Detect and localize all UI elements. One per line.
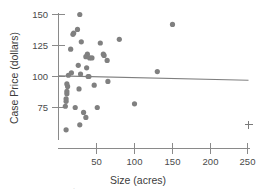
data-point	[83, 115, 88, 120]
data-point	[75, 27, 80, 32]
scatter-plot-figure: 150 125 100 75 50 100 150 200 250 Size (…	[0, 0, 263, 194]
y-tick-label-75: 75	[37, 102, 48, 113]
x-tick-label-250: 250	[240, 156, 256, 167]
data-point	[68, 47, 73, 52]
data-point	[76, 63, 81, 68]
data-point	[155, 69, 160, 74]
x-tick-label-150: 150	[165, 156, 181, 167]
data-point	[132, 101, 137, 106]
data-point	[77, 12, 82, 17]
data-point	[76, 86, 81, 91]
plot-canvas: 150 125 100 75 50 100 150 200 250 Size (…	[0, 0, 263, 194]
data-point	[117, 37, 122, 42]
data-point	[65, 84, 70, 89]
data-point	[64, 99, 69, 104]
data-point	[102, 53, 107, 58]
y-tick-label-125: 125	[32, 40, 48, 51]
data-point	[63, 104, 68, 109]
data-point	[95, 105, 100, 110]
data-point	[86, 74, 91, 79]
data-point	[79, 39, 84, 44]
data-point	[105, 58, 110, 63]
data-point	[89, 55, 94, 60]
data-point	[66, 73, 71, 78]
data-point	[70, 32, 75, 37]
data-point	[73, 105, 78, 110]
data-point	[105, 79, 110, 84]
x-tick-label-50: 50	[91, 156, 102, 167]
data-point	[81, 110, 86, 115]
corner-artifact: ·	[73, 185, 75, 191]
y-tick-label-150: 150	[32, 9, 48, 20]
data-point	[64, 127, 69, 132]
y-tick-label-100: 100	[32, 71, 48, 82]
data-point	[78, 71, 83, 76]
data-point	[77, 122, 82, 127]
y-axis-title: Case Price (dollars)	[8, 32, 20, 124]
x-tick-label-100: 100	[127, 156, 143, 167]
data-point	[98, 40, 103, 45]
data-point	[92, 83, 97, 88]
x-axis-title: Size (acres)	[110, 174, 166, 186]
outlier-plus-marker	[245, 121, 253, 129]
data-point	[84, 65, 89, 70]
data-point	[64, 91, 69, 96]
x-tick-label-200: 200	[203, 156, 219, 167]
data-point	[170, 22, 175, 27]
data-points-layer	[63, 12, 175, 133]
